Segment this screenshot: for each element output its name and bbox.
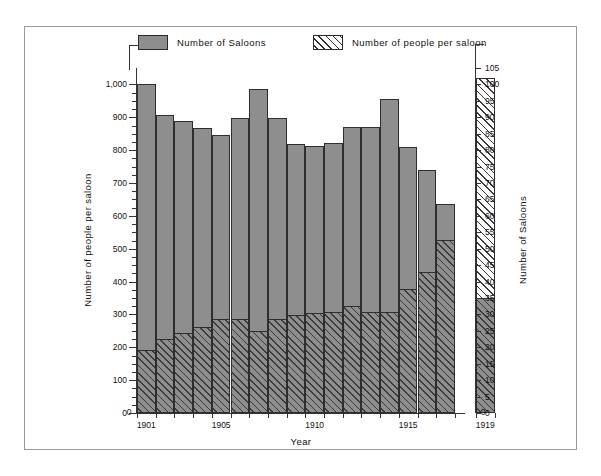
- right-tick-label: 100: [485, 79, 499, 89]
- left-tick-label: 800: [113, 145, 127, 155]
- right-tick-label: 15: [485, 359, 494, 369]
- bar-people-per-saloon-1905[interactable]: [212, 319, 231, 413]
- left-minor-tick: [132, 323, 137, 324]
- right-tick: [476, 380, 481, 381]
- right-tick-label: 50: [485, 244, 494, 254]
- legend-item-people-per-saloon: Number of people per saloon: [313, 35, 487, 50]
- right-tick-label: 35: [485, 293, 494, 303]
- left-minor-tick: [132, 191, 137, 192]
- bar-people-per-saloon-1907[interactable]: [249, 331, 268, 413]
- left-tick: [129, 314, 137, 315]
- bar-people-per-saloon-1912[interactable]: [343, 306, 362, 413]
- right-tick: [476, 101, 481, 102]
- left-tick-label: 100: [113, 375, 127, 385]
- left-minor-tick: [132, 339, 137, 340]
- axis-zero-label: 0: [481, 407, 486, 417]
- x-tick: [399, 413, 400, 418]
- bar-group-1903[interactable]: [174, 68, 193, 413]
- bar-people-per-saloon-1902[interactable]: [156, 339, 175, 413]
- bar-people-per-saloon-1903[interactable]: [174, 333, 193, 414]
- left-minor-tick: [132, 356, 137, 357]
- left-tick: [129, 216, 137, 217]
- right-tick-label: 105: [485, 63, 499, 73]
- x-tick: [193, 413, 194, 418]
- left-minor-tick: [132, 208, 137, 209]
- left-minor-tick: [132, 397, 137, 398]
- left-minor-tick: [132, 364, 137, 365]
- left-minor-tick: [132, 265, 137, 266]
- bar-people-per-saloon-1906[interactable]: [231, 319, 250, 413]
- left-minor-tick: [132, 158, 137, 159]
- bar-group-1906[interactable]: [231, 68, 250, 413]
- bar-group-1904[interactable]: [193, 68, 212, 413]
- x-tick-label-1915: 1915: [399, 420, 418, 430]
- axis-zero-label: 0: [127, 407, 132, 417]
- bar-group-1907[interactable]: [249, 68, 268, 413]
- bars-area: [137, 68, 465, 413]
- right-tick-label: 90: [485, 112, 494, 122]
- bar-people-per-saloon-1910[interactable]: [305, 313, 324, 413]
- bar-people-per-saloon-1904[interactable]: [193, 327, 212, 413]
- x-tick-label-1910: 1910: [305, 420, 324, 430]
- left-tick: [129, 282, 137, 283]
- left-minor-tick: [132, 134, 137, 135]
- right-tick: [476, 364, 481, 365]
- x-tick: [305, 413, 306, 418]
- left-tick: [129, 380, 137, 381]
- right-tick-label: 60: [485, 211, 494, 221]
- left-minor-tick: [132, 388, 137, 389]
- bar-group-1916[interactable]: [418, 68, 437, 413]
- bar-group-1909[interactable]: [287, 68, 306, 413]
- bar-group-1902[interactable]: [156, 68, 175, 413]
- left-minor-tick: [132, 224, 137, 225]
- right-tick-label: 55: [485, 227, 494, 237]
- bar-group-1917[interactable]: [436, 68, 455, 413]
- x-tick: [436, 413, 437, 418]
- chart-frame: Number of Saloons Number of people per s…: [24, 26, 577, 450]
- right-tick: [476, 249, 481, 250]
- x-tick: [249, 413, 250, 418]
- bar-people-per-saloon-1916[interactable]: [418, 272, 437, 413]
- right-axis-title: Number of Saloons: [517, 196, 528, 284]
- x-tick-label-1905: 1905: [212, 420, 231, 430]
- bar-group-1913[interactable]: [361, 68, 380, 413]
- bar-group-1912[interactable]: [343, 68, 362, 413]
- x-tick-label-1919: 1919: [476, 420, 495, 430]
- bar-group-1915[interactable]: [399, 68, 418, 413]
- bar-group-1910[interactable]: [305, 68, 324, 413]
- bar-people-per-saloon-1911[interactable]: [324, 312, 343, 413]
- bar-group-1914[interactable]: [380, 68, 399, 413]
- right-tick-label: 40: [485, 277, 494, 287]
- x-tick: [476, 413, 477, 418]
- bar-people-per-saloon-1915[interactable]: [399, 289, 418, 413]
- bar-people-per-saloon-1913[interactable]: [361, 312, 380, 413]
- left-minor-tick: [132, 290, 137, 291]
- right-tick-label: 65: [485, 194, 494, 204]
- bar-people-per-saloon-1909[interactable]: [287, 315, 306, 413]
- bar-people-per-saloon-1901[interactable]: [137, 350, 156, 413]
- left-tick-label: 400: [113, 277, 127, 287]
- left-minor-tick: [132, 331, 137, 332]
- bar-group-1908[interactable]: [268, 68, 287, 413]
- right-tick-label: 10: [485, 375, 494, 385]
- left-minor-tick: [132, 232, 137, 233]
- left-minor-tick: [132, 142, 137, 143]
- left-minor-tick: [132, 126, 137, 127]
- right-tick: [476, 232, 481, 233]
- legend-swatch-saloons: [138, 35, 168, 50]
- x-tick: [343, 413, 344, 418]
- right-tick-label: 5: [485, 392, 490, 402]
- bar-group-1901[interactable]: [137, 68, 156, 413]
- right-tick: [476, 117, 481, 118]
- bar-group-1905[interactable]: [212, 68, 231, 413]
- bar-people-per-saloon-1908[interactable]: [268, 319, 287, 413]
- left-tick-label: 1,000: [106, 79, 127, 89]
- right-tick: [476, 347, 481, 348]
- right-tick-label: 75: [485, 162, 494, 172]
- bar-people-per-saloon-1914[interactable]: [380, 312, 399, 413]
- left-tick-label: 200: [113, 342, 127, 352]
- bar-group-1911[interactable]: [324, 68, 343, 413]
- right-tick: [476, 216, 481, 217]
- left-minor-tick: [132, 109, 137, 110]
- bar-people-per-saloon-1917[interactable]: [436, 240, 455, 413]
